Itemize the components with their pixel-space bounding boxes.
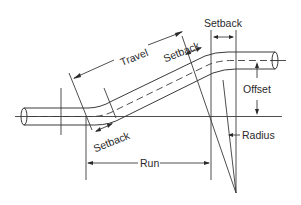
setback-bottom-label: Setback bbox=[91, 129, 131, 155]
setback-top-dimension: Setback bbox=[204, 17, 243, 39]
run-dimension: Run bbox=[87, 157, 210, 169]
setback-top-label: Setback bbox=[204, 17, 243, 29]
pipe-offset-diagram: Travel Setback Setback Setback Offset Ra… bbox=[0, 0, 301, 205]
run-label: Run bbox=[140, 157, 159, 169]
setback-bottom-dimension: Setback bbox=[91, 123, 131, 154]
pipe bbox=[21, 52, 280, 125]
radius-dimension: Radius bbox=[228, 129, 275, 141]
radius-line-left bbox=[182, 36, 236, 193]
radius-line-mid bbox=[223, 80, 236, 193]
travel-start-line bbox=[69, 73, 92, 130]
travel-label: Travel bbox=[118, 46, 149, 68]
offset-dimension: Offset bbox=[243, 62, 271, 115]
radius-label: Radius bbox=[242, 129, 275, 141]
offset-label: Offset bbox=[243, 83, 271, 95]
setback-lower-perp bbox=[104, 88, 116, 118]
